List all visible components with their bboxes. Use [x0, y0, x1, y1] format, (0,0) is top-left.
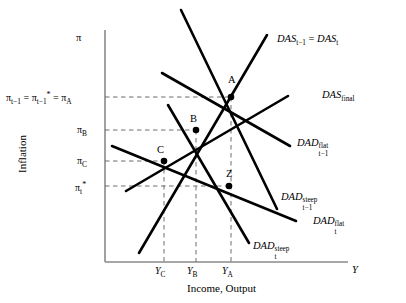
- das-final-sub: final: [341, 95, 354, 103]
- y-tick-piC-sub: C: [82, 160, 87, 169]
- y-tick-piA-subA: A: [66, 97, 71, 106]
- y-tick-piA-sub2: t−1: [37, 97, 47, 106]
- point-dot-C[interactable]: [161, 158, 168, 165]
- y-tick-piA-star: *: [47, 90, 51, 99]
- dadft-base: DAD: [313, 215, 335, 226]
- point-dot-Z[interactable]: [226, 183, 233, 190]
- y-tick-pistar-star: *: [82, 180, 86, 189]
- dadft-sub: t: [335, 228, 337, 236]
- curve-label-dad-steep-prev: DADsteept−1: [281, 191, 303, 202]
- point-label-B: B: [190, 113, 197, 124]
- y-tick-piA-sub1: t−1: [11, 97, 21, 106]
- point-label-Z: Z: [226, 168, 232, 179]
- y-axis-title: Inflation: [16, 114, 28, 194]
- das-eq: =: [306, 33, 317, 44]
- point-label-A: A: [228, 74, 236, 85]
- x-tick-YA: YA: [222, 265, 233, 279]
- dadfp-base: DAD: [297, 137, 319, 148]
- dadst-sub: t: [275, 253, 277, 261]
- y-tick-pistar: πt*: [75, 180, 86, 196]
- y-tick-piC: πC: [77, 155, 87, 169]
- y-tick-piB: πB: [77, 124, 87, 138]
- y-tick-piB-sub: B: [82, 129, 87, 138]
- dadsp-sup: steep: [303, 196, 318, 204]
- curve-dad-flat-prev[interactable]: [162, 73, 290, 146]
- das-sub-1: t−1: [296, 39, 306, 47]
- y-tick-piA: πt−1 = πt−1* = πA: [6, 90, 72, 106]
- dadsp-sub: t−1: [303, 204, 313, 212]
- x-axis-symbol: Y: [352, 264, 358, 275]
- das-sub-2: t: [336, 39, 338, 47]
- das-final-base: DAS: [322, 89, 341, 100]
- x-tick-YB: YB: [187, 265, 198, 279]
- curve-label-das-prev-eq-das-t: DASt−1 = DASt: [277, 33, 338, 47]
- dadfp-sub: t−1: [319, 150, 329, 158]
- curve-label-dad-flat-prev: DADflatt−1: [297, 137, 319, 148]
- chart-svg: [0, 0, 406, 303]
- curve-label-das-final: DASfinal: [322, 89, 354, 103]
- y-axis-symbol: π: [76, 32, 81, 43]
- curve-label-dad-flat-t: DADflatt: [313, 215, 335, 226]
- point-dot-A[interactable]: [228, 94, 235, 101]
- x-tick-YC: YC: [155, 265, 166, 279]
- chart-canvas: π Y Inflation Income, Output πt−1 = πt−1…: [0, 0, 406, 303]
- point-label-C: C: [157, 144, 164, 155]
- x-tick-YB-sub: B: [193, 270, 198, 279]
- dadst-base: DAD: [253, 240, 275, 251]
- dadst-sup: steep: [275, 245, 290, 253]
- das-base-2: DAS: [317, 33, 336, 44]
- das-base-1: DAS: [277, 33, 296, 44]
- curve-das-final[interactable]: [126, 96, 288, 191]
- x-tick-YA-sub: A: [228, 270, 233, 279]
- curve-label-dad-steep-t: DADsteept: [253, 240, 275, 251]
- x-axis-title: Income, Output: [187, 282, 256, 294]
- dadsp-base: DAD: [281, 191, 303, 202]
- point-dot-B[interactable]: [193, 127, 200, 134]
- x-tick-YC-sub: C: [161, 270, 166, 279]
- dadft-sup: flat: [335, 220, 345, 228]
- dadfp-sup: flat: [319, 142, 329, 150]
